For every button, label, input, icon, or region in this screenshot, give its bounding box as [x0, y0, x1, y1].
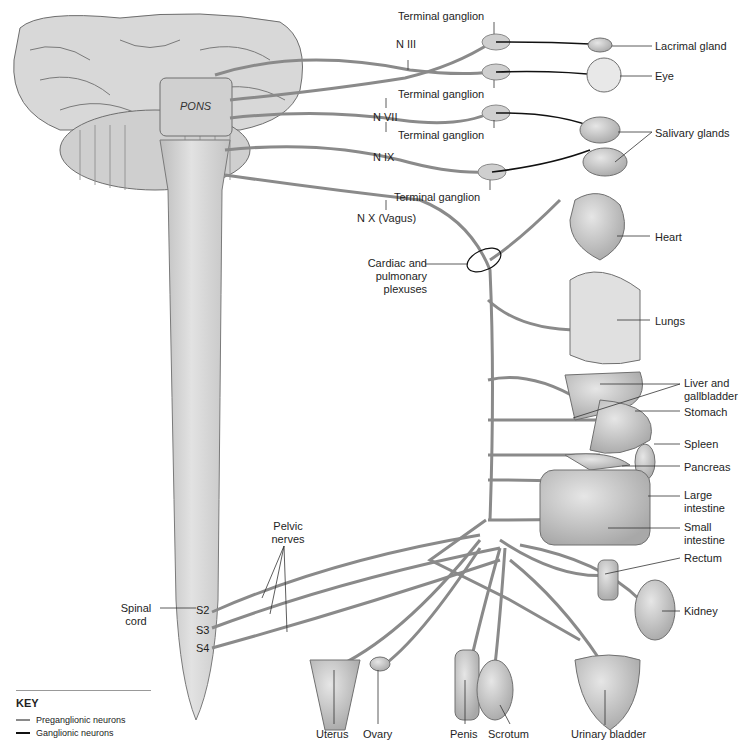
spinal-cord-label: Spinal cord	[116, 602, 156, 628]
pelvic-nerves-label: Pelvic nerves	[268, 520, 308, 546]
pons-label: PONS	[180, 100, 211, 112]
organ-label-salivary: Salivary glands	[655, 127, 730, 140]
ganglion-label-3: Terminal ganglion	[398, 129, 484, 142]
organ-label-penis: Penis	[450, 728, 478, 741]
plexus-label: Cardiac and pulmonary plexuses	[355, 257, 427, 296]
legend-item-preganglionic: Preganglionic neurons	[16, 713, 151, 726]
brain	[14, 14, 303, 190]
organ-label-large-intestine: Large intestine	[684, 489, 739, 515]
nerve-label-n9: N IX	[373, 151, 394, 164]
nerve-label-n3: N III	[396, 38, 416, 51]
organ-label-heart: Heart	[655, 231, 682, 244]
segment-s2: S2	[196, 604, 209, 617]
nerve-label-n7: N VII	[373, 111, 397, 124]
terminal-ganglia	[478, 34, 510, 180]
ganglion-label-1: Terminal ganglion	[398, 10, 484, 23]
ganglion-label-2: Terminal ganglion	[398, 88, 484, 101]
organ-label-eye: Eye	[655, 70, 674, 83]
legend-item-ganglionic: Ganglionic neurons	[16, 726, 151, 739]
organ-label-bladder: Urinary bladder	[571, 728, 646, 741]
segment-s4: S4	[196, 642, 209, 655]
organ-label-uterus: Uterus	[316, 728, 348, 741]
organ-label-lungs: Lungs	[655, 315, 685, 328]
ganglion-label-4: Terminal ganglion	[394, 191, 480, 204]
ganglionic-swatch	[16, 732, 30, 734]
organ-label-rectum: Rectum	[684, 552, 722, 565]
organ-label-liver: Liver and gallbladder	[684, 377, 744, 403]
legend-label: Preganglionic neurons	[36, 715, 126, 725]
organ-label-spleen: Spleen	[684, 438, 718, 451]
organ-label-lacrimal: Lacrimal gland	[655, 40, 727, 53]
organ-label-kidney: Kidney	[684, 605, 718, 618]
legend-label: Ganglionic neurons	[36, 728, 114, 738]
organ-label-stomach: Stomach	[684, 406, 727, 419]
organ-label-scrotum: Scrotum	[488, 728, 529, 741]
legend: KEY Preganglionic neurons Ganglionic neu…	[16, 690, 151, 739]
organ-label-ovary: Ovary	[363, 728, 392, 741]
organ-label-pancreas: Pancreas	[684, 461, 730, 474]
segment-s3: S3	[196, 624, 209, 637]
preganglionic-swatch	[16, 719, 30, 721]
nerve-label-n10: N X (Vagus)	[357, 212, 416, 225]
legend-title: KEY	[16, 697, 151, 709]
organ-label-small-intestine: Small intestine	[684, 521, 739, 547]
spinal-cord	[160, 140, 230, 720]
